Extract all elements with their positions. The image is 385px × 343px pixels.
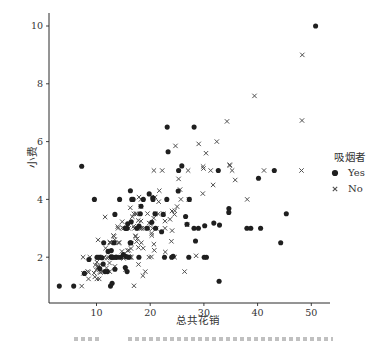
- data-point-x: [157, 189, 161, 193]
- data-point-dot: [138, 211, 143, 216]
- data-point-dot: [186, 255, 191, 260]
- data-point-x: [173, 144, 177, 148]
- data-point-dot: [202, 223, 207, 228]
- data-point-x: [139, 241, 143, 245]
- data-point-x: [252, 94, 256, 98]
- data-point-dot: [153, 226, 158, 231]
- data-point-dot: [57, 284, 62, 289]
- data-point-dot: [187, 197, 192, 202]
- data-point-dot: [256, 176, 261, 181]
- data-point-x: [152, 242, 156, 246]
- y-tick-label: 2: [37, 252, 43, 263]
- data-point-dot: [191, 226, 196, 231]
- data-point-dot: [128, 188, 133, 193]
- y-tick-label: 4: [37, 194, 43, 205]
- data-point-x: [86, 277, 90, 281]
- data-point-x: [143, 269, 147, 273]
- data-point-x: [168, 217, 172, 221]
- data-point-dot: [102, 269, 107, 274]
- data-point-x: [157, 200, 161, 204]
- data-point-dot: [129, 219, 134, 224]
- data-point-dot: [124, 226, 129, 231]
- y-axis-label: 小费: [24, 137, 38, 177]
- data-point-dot: [123, 254, 128, 259]
- data-point-dot: [226, 206, 231, 211]
- data-point-x: [163, 219, 167, 223]
- data-point-x: [225, 119, 229, 123]
- data-point-dot: [216, 168, 221, 173]
- data-point-dot: [164, 197, 169, 202]
- data-point-x: [152, 168, 156, 172]
- series-yes-points: [57, 23, 318, 288]
- data-point-dot: [117, 197, 122, 202]
- data-point-x: [176, 177, 180, 181]
- data-point-dot: [141, 197, 146, 202]
- data-point-x: [299, 168, 303, 172]
- data-point-x: [211, 183, 215, 187]
- data-point-x: [209, 168, 213, 172]
- data-point-dot: [79, 164, 84, 169]
- data-point-dot: [145, 226, 150, 231]
- data-point-dot: [313, 23, 318, 28]
- data-point-dot: [101, 240, 106, 245]
- data-point-x: [141, 246, 145, 250]
- data-point-x: [160, 168, 164, 172]
- x-tick-label: 10: [90, 307, 102, 318]
- data-point-x: [215, 139, 219, 143]
- data-point-dot: [284, 211, 289, 216]
- data-point-dot: [162, 255, 167, 260]
- data-point-x: [169, 239, 173, 243]
- data-point-x: [107, 261, 111, 265]
- data-point-dot: [217, 223, 222, 228]
- data-point-x: [96, 238, 100, 242]
- data-point-x: [194, 254, 198, 258]
- data-point-x: [186, 168, 190, 172]
- data-point-dot: [165, 125, 170, 130]
- cropped-caption-fragment: [74, 337, 100, 341]
- data-point-dot: [202, 255, 207, 260]
- data-point-dot: [278, 240, 283, 245]
- data-point-x: [132, 284, 136, 288]
- data-point-x: [175, 204, 179, 208]
- x-axis-label: 总共花销: [138, 312, 258, 327]
- data-point-dot: [152, 211, 157, 216]
- data-point-x: [97, 277, 101, 281]
- data-point-x: [204, 151, 208, 155]
- data-point-dot: [217, 279, 222, 284]
- data-point-dot: [169, 255, 174, 260]
- data-point-dot: [101, 262, 106, 267]
- data-point-dot: [192, 125, 197, 130]
- data-point-dot: [211, 221, 216, 226]
- y-tick-label: 8: [37, 78, 43, 89]
- data-point-dot: [258, 226, 263, 231]
- data-point-dot: [147, 191, 152, 196]
- data-point-x: [245, 197, 249, 201]
- data-point-dot: [196, 226, 201, 231]
- data-point-dot: [82, 271, 87, 276]
- data-point-dot: [193, 238, 198, 243]
- data-point-x: [152, 248, 156, 252]
- filled-dot-icon: [330, 168, 340, 178]
- data-point-x: [182, 269, 186, 273]
- data-point-dot: [184, 222, 189, 227]
- data-point-x: [197, 142, 201, 146]
- data-point-dot: [112, 267, 117, 272]
- data-point-dot: [106, 249, 111, 254]
- data-point-x: [300, 53, 304, 57]
- data-point-x: [81, 255, 85, 259]
- data-point-dot: [97, 266, 102, 271]
- data-point-dot: [159, 229, 164, 234]
- data-point-dot: [136, 255, 141, 260]
- scatter-plot-figure: 1020304050246810 小费 总共花销 吸烟者 Yes No: [0, 0, 385, 343]
- data-point-x: [179, 197, 183, 201]
- data-point-x: [136, 245, 140, 249]
- y-tick-label: 10: [31, 20, 43, 31]
- data-point-dot: [179, 163, 184, 168]
- data-point-dot: [125, 269, 130, 274]
- legend-title: 吸烟者: [325, 149, 375, 164]
- data-point-dot: [176, 188, 181, 193]
- data-point-x: [170, 228, 174, 232]
- data-point-dot: [138, 204, 143, 209]
- data-point-x: [201, 191, 205, 195]
- data-point-x: [163, 226, 167, 230]
